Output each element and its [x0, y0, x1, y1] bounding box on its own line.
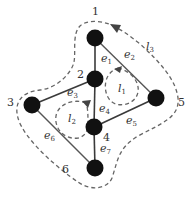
node-label-2: 2: [77, 68, 84, 81]
node-label-1: 1: [92, 5, 99, 18]
node-6: [87, 160, 104, 177]
node-label-3: 3: [7, 96, 14, 109]
node-label-6: 6: [62, 163, 69, 176]
loop-l1-path: [105, 68, 138, 105]
graph-diagram: 1 2 3 4 5 6 e1 e2 e3 e4 e5 e6 e7 l1 l2 l…: [0, 0, 192, 197]
loop-l2-arrow-icon: [82, 100, 91, 108]
edge-label-e7: e7: [100, 142, 111, 156]
edge-label-e4: e4: [99, 102, 111, 116]
node-4: [86, 119, 103, 136]
loop-l1-arrow-icon: [114, 66, 122, 73]
edge-label-e1: e1: [101, 52, 112, 66]
edge-label-e3: e3: [67, 86, 78, 100]
node-2: [87, 71, 104, 88]
edge-label-e5: e5: [126, 114, 137, 128]
edge-e6: [32, 105, 95, 168]
loop-label-l1: l1: [118, 82, 126, 96]
node-3: [24, 97, 41, 114]
node-label-5: 5: [178, 96, 185, 109]
node-1: [87, 30, 104, 47]
edge-label-e6: e6: [44, 129, 56, 143]
edge-label-e2: e2: [124, 48, 135, 62]
node-5: [148, 90, 165, 107]
loop-label-l3: l3: [146, 40, 154, 54]
loop-label-l2: l2: [68, 112, 76, 126]
